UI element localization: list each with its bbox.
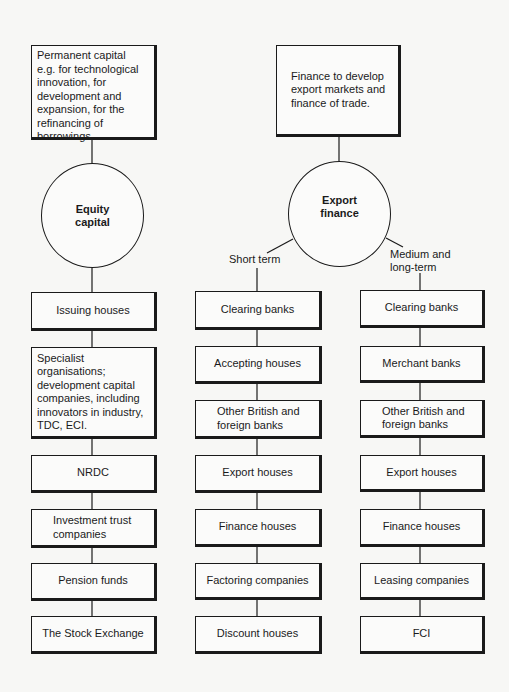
medium-long-source-box: Leasing companies	[360, 563, 485, 600]
equity-source-box: Pension funds	[31, 563, 157, 601]
short-term-source-box: Finance houses	[195, 509, 322, 547]
equity-source-box: Specialist organisations; development ca…	[31, 347, 157, 439]
medium-long-source-box: Other British and foreign banks	[360, 400, 485, 438]
equity-source-box: The Stock Exchange	[31, 616, 157, 654]
medium-long-source-box: Merchant banks	[360, 346, 485, 383]
equity-capital-hub: Equity capital	[41, 163, 144, 268]
short-term-source-box: Accepting houses	[195, 346, 322, 384]
short-term-source-box: Other British and foreign banks	[195, 400, 322, 439]
medium-long-source-box: FCI	[360, 616, 485, 654]
equity-source-box: NRDC	[31, 455, 157, 493]
export-description-box: Finance to develop export markets and fi…	[276, 45, 401, 137]
export-finance-hub: Export finance	[288, 161, 391, 267]
short-term-source-box: Export houses	[195, 455, 322, 493]
short-term-source-box: Discount houses	[195, 616, 322, 654]
medium-long-source-box: Clearing banks	[360, 290, 485, 328]
equity-description-box: Permanent capital e.g. for technological…	[31, 45, 157, 140]
equity-source-box: Investment trust companies	[31, 509, 157, 548]
export-description: Finance to develop export markets and fi…	[291, 70, 385, 111]
short-term-source-box: Clearing banks	[195, 291, 322, 330]
finance-sources-diagram: Permanent capital e.g. for technological…	[0, 0, 509, 692]
equity-description: Permanent capital e.g. for technological…	[37, 49, 139, 144]
medium-long-source-box: Export houses	[360, 455, 485, 492]
short-term-source-box: Factoring companies	[195, 563, 322, 600]
short-term-label: Short term	[229, 253, 280, 266]
medium-long-source-box: Finance houses	[360, 509, 485, 547]
equity-source-box: Issuing houses	[31, 292, 157, 331]
medium-long-term-label: Medium and long-term	[390, 248, 451, 274]
